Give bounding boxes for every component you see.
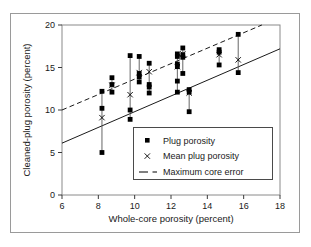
legend-square-icon	[145, 138, 150, 143]
plug-porosity-point	[147, 61, 152, 66]
plug-porosity-point	[147, 85, 152, 90]
x-axis-title: Whole-core porosity (percent)	[108, 213, 233, 224]
plug-porosity-point	[100, 89, 105, 94]
plug-porosity-point	[187, 109, 192, 114]
x-tick-label: 12	[166, 201, 176, 211]
legend-label-error: Maximum core error	[163, 167, 244, 177]
x-tick-label: 6	[59, 201, 64, 211]
figure-container: 681012141618 05101520 Whole-core porosit…	[0, 0, 311, 247]
plug-porosity-point	[175, 79, 180, 84]
x-tick-label: 10	[130, 201, 140, 211]
plug-porosity-point	[137, 54, 142, 59]
y-axis-title: Cleaned-plug porosity (percent)	[21, 43, 32, 176]
plug-porosity-point	[100, 106, 105, 111]
y-axis-tick-labels: 05101520	[45, 20, 55, 200]
plug-porosity-point	[137, 74, 142, 79]
chart-canvas: 681012141618 05101520 Whole-core porosit…	[0, 0, 311, 247]
plug-porosity-point	[128, 117, 133, 122]
legend-label-mean: Mean plug porosity	[163, 151, 240, 161]
x-tick-label: 16	[239, 201, 249, 211]
mean-plug-porosity-markers	[99, 51, 241, 120]
plug-porosity-point	[180, 46, 185, 51]
plug-porosity-point	[236, 32, 241, 37]
x-tick-label: 14	[202, 201, 212, 211]
y-tick-label: 20	[45, 20, 55, 30]
plug-porosity-point	[175, 54, 180, 59]
legend-label-plug: Plug porosity	[163, 136, 216, 146]
plug-porosity-point	[100, 150, 105, 155]
y-tick-label: 5	[50, 148, 55, 158]
plug-porosity-point	[110, 82, 115, 87]
chart-legend: Plug porosity Mean plug porosity Maximum…	[134, 128, 273, 180]
max-core-error-line	[62, 25, 262, 110]
x-axis-tick-labels: 681012141618	[59, 201, 285, 211]
plug-porosity-point	[175, 90, 180, 95]
x-tick-label: 18	[275, 201, 285, 211]
plug-porosity-point	[217, 63, 222, 68]
y-tick-label: 0	[50, 190, 55, 200]
y-tick-label: 15	[45, 63, 55, 73]
plug-porosity-point	[128, 108, 133, 113]
plug-porosity-point	[128, 53, 133, 58]
plug-porosity-point	[187, 90, 192, 95]
y-tick-label: 10	[45, 105, 55, 115]
plug-porosity-point	[180, 71, 185, 76]
plug-porosity-point	[110, 90, 115, 95]
plug-porosity-point	[147, 91, 152, 96]
x-tick-label: 8	[96, 201, 101, 211]
plug-porosity-point	[110, 75, 115, 80]
plug-porosity-point	[236, 70, 241, 75]
plug-porosity-point	[217, 50, 222, 55]
reference-lines	[62, 25, 280, 143]
plug-porosity-point	[137, 80, 142, 85]
